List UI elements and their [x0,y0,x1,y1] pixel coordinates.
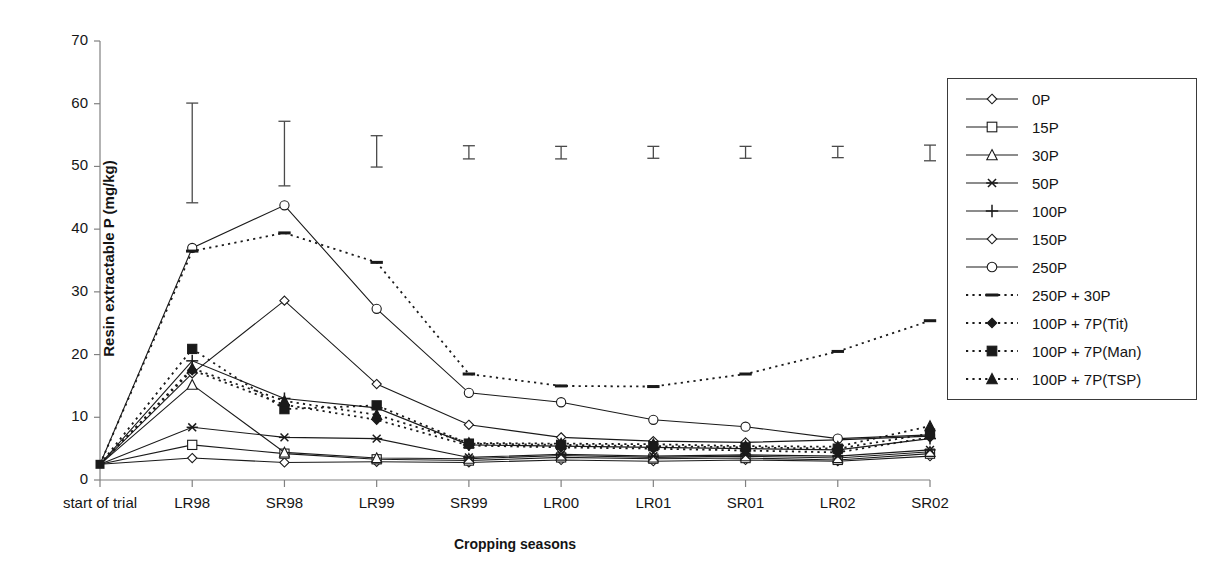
y-axis-tick-label: 70 [42,31,88,48]
data-point-open-diamond [987,94,997,104]
series-250p [100,201,935,465]
legend-item-100p-7p-tit-[interactable]: 100P + 7P(Tit) [948,309,1196,337]
data-point-open-diamond [188,453,197,462]
data-point-star [279,433,290,441]
data-point-filled-triangle [987,373,998,383]
data-point-dash [986,294,999,297]
legend-item-label: 100P + 7P(Tit) [1032,315,1128,332]
data-point-dash [463,373,475,376]
data-point-dash [555,384,567,387]
legend-key-open-diamond-icon [964,229,1020,249]
legend-item-label: 100P [1032,203,1067,220]
series-line [100,301,930,465]
series-line [100,370,930,464]
data-point-open-square [987,122,997,132]
data-point-dash [186,250,198,253]
series-50p [100,423,936,464]
legend-key-open-circle-icon [964,257,1020,277]
y-axis-title: Resin extractable P (mg/kg) [100,49,117,469]
y-axis-tick-label: 20 [42,345,88,362]
data-point-dash [647,385,659,388]
chart-figure: Resin extractable P (mg/kg) Cropping sea… [0,0,1209,573]
data-point-open-circle [741,422,750,431]
legend-item-label: 50P [1032,175,1059,192]
data-point-open-diamond [280,458,289,467]
data-point-dash [278,231,290,234]
data-point-star [371,435,382,443]
error-bar [832,146,844,157]
data-point-plus [986,205,998,217]
data-point-open-circle [280,201,289,210]
legend: 0P15P30P50P100P150P250P250P + 30P100P + … [947,78,1197,400]
error-bar [186,103,198,203]
error-bar [555,146,567,159]
y-axis-tick-label: 10 [42,407,88,424]
legend-item-100p-7p-tsp-[interactable]: 100P + 7P(TSP) [948,365,1196,393]
legend-item-label: 100P + 7P(TSP) [1032,371,1141,388]
data-point-open-triangle [187,379,197,389]
legend-item-label: 150P [1032,231,1067,248]
legend-item-250p-30p[interactable]: 250P + 30P [948,281,1196,309]
legend-key-star-icon [964,173,1020,193]
y-axis-tick-label: 40 [42,219,88,236]
data-point-filled-square [987,346,997,356]
legend-item-label: 0P [1032,91,1050,108]
legend-item-15p[interactable]: 15P [948,113,1196,141]
y-axis-tick-label: 30 [42,282,88,299]
error-bar [740,146,752,158]
data-point-open-circle [649,415,658,424]
legend-key-open-diamond-icon [964,89,1020,109]
legend-key-open-square-icon [964,117,1020,137]
data-point-filled-square [188,344,197,353]
legend-item-label: 15P [1032,119,1059,136]
legend-key-filled-square-icon [964,341,1020,361]
data-point-open-circle [557,398,566,407]
data-point-dash [370,261,382,264]
legend-key-plus-icon [964,201,1020,221]
data-point-open-square [188,440,197,449]
error-bar [371,136,383,167]
legend-item-label: 250P [1032,259,1067,276]
data-point-star [986,179,998,187]
legend-item-30p[interactable]: 30P [948,141,1196,169]
legend-item-0p[interactable]: 0P [948,85,1196,113]
legend-key-filled-diamond-icon [964,313,1020,333]
legend-item-label: 100P + 7P(Man) [1032,343,1141,360]
data-point-star [187,423,198,431]
series-30p [100,379,935,464]
legend-item-label: 30P [1032,147,1059,164]
x-axis-title: Cropping seasons [100,536,930,552]
data-point-open-diamond [987,234,997,244]
y-axis-tick-label: 0 [42,470,88,487]
data-point-open-circle [987,262,997,272]
data-point-filled-diamond [987,318,997,328]
data-point-filled-triangle [925,421,935,431]
legend-item-100p-7p-man-[interactable]: 100P + 7P(Man) [948,337,1196,365]
legend-key-dash-icon [964,285,1020,305]
data-point-open-circle [464,388,473,397]
error-bar [924,145,936,161]
legend-item-label: 250P + 30P [1032,287,1111,304]
data-point-dash [832,350,844,353]
data-point-dash [924,319,936,322]
error-bar [463,146,475,159]
x-axis-tick-label: SR02 [860,494,1000,511]
y-axis-tick-label: 50 [42,156,88,173]
y-axis-tick-label: 60 [42,94,88,111]
legend-item-250p[interactable]: 250P [948,253,1196,281]
series-line [100,361,930,464]
series-line [100,205,930,464]
error-bar [278,121,290,186]
error-bar [647,146,659,158]
legend-key-filled-triangle-icon [964,369,1020,389]
legend-item-150p[interactable]: 150P [948,225,1196,253]
legend-key-open-triangle-icon [964,145,1020,165]
legend-item-50p[interactable]: 50P [948,169,1196,197]
legend-item-100p[interactable]: 100P [948,197,1196,225]
data-point-open-diamond [464,420,473,429]
data-point-dash [739,373,751,376]
data-point-open-circle [372,304,381,313]
